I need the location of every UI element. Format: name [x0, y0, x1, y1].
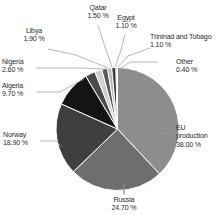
slice-label-other: Other 0.40 %: [176, 58, 217, 75]
slice-label-algeria-name: Algeria: [2, 82, 48, 90]
slice-label-nigeria: Nigeria 2.60 %: [2, 58, 48, 75]
slice-label-trinidad: Trininad and Tobago 1.10 %: [150, 33, 217, 50]
leader-line-egypt: [115, 34, 125, 67]
leader-line-qatar: [98, 25, 112, 67]
slice-label-qatar-name: Qatar: [74, 4, 122, 12]
slice-label-algeria-value: 9.70 %: [2, 90, 48, 98]
slice-label-other-value: 0.40 %: [176, 66, 217, 74]
slice-label-eu-production-name2: production: [176, 132, 217, 140]
slice-label-norway-value: 18.90 %: [3, 139, 47, 147]
slice-label-norway: Norway 18.90 %: [3, 131, 47, 148]
slice-label-other-name: Other: [176, 58, 217, 66]
slice-label-russia: Russia 24.70 %: [100, 196, 148, 213]
pie-slice-group: [56, 68, 179, 191]
slice-label-trinidad-name: Trininad and Tobago: [150, 33, 217, 41]
slice-label-libya-name: Libya: [10, 27, 58, 35]
slice-label-russia-value: 24.70 %: [100, 204, 148, 212]
slice-label-russia-name: Russia: [100, 196, 148, 204]
leader-line-libya: [48, 49, 108, 68]
leader-line-trinidad: [118, 48, 150, 67]
slice-label-trinidad-value: 1.10 %: [150, 41, 217, 49]
slice-label-norway-name: Norway: [3, 131, 47, 139]
slice-label-libya: Libya 1.90 %: [10, 27, 58, 44]
slice-label-eu-production-value: 38.00 %: [176, 141, 217, 149]
pie-chart: Qatar 1.50 % Egypt 1.10 % Trininad and T…: [0, 0, 217, 215]
leader-line-other: [121, 62, 158, 68]
slice-label-algeria: Algeria 9.70 %: [2, 82, 48, 99]
slice-label-egypt: Egypt 1.10 %: [104, 14, 148, 31]
slice-label-egypt-name: Egypt: [104, 14, 148, 22]
slice-label-libya-value: 1.90 %: [10, 35, 58, 43]
slice-label-egypt-value: 1.10 %: [104, 22, 148, 30]
slice-label-eu-production: EU production 38.00 %: [176, 124, 217, 149]
slice-label-nigeria-value: 2.60 %: [2, 66, 48, 74]
slice-label-nigeria-name: Nigeria: [2, 58, 48, 66]
slice-label-eu-production-name: EU: [176, 124, 217, 132]
